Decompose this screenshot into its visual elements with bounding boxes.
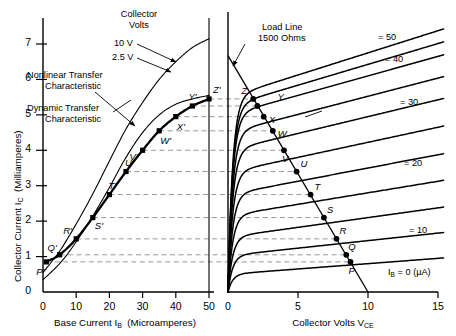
- dynamic-transfer-label-line2: Characteristic: [45, 114, 101, 124]
- collector-volts-10v-label: 10 V: [114, 38, 133, 48]
- collector-volts-title-2: Volts: [108, 20, 170, 30]
- left-point-label-T-prime: T': [108, 181, 116, 192]
- curve-label-ib-50: = 50: [378, 32, 396, 42]
- right-point-label-Q: Q: [348, 242, 355, 253]
- x-axis-title-main: Base Current I: [54, 317, 117, 328]
- load-line-label-line1: Load Line: [262, 22, 302, 32]
- left-point-label-Z-prime: Z': [213, 85, 221, 96]
- right-x-tick-15: 15: [423, 301, 453, 313]
- left-y-tick-2: 2: [5, 214, 31, 226]
- left-y-tick-1: 1: [5, 250, 31, 262]
- right-point-label-T: T: [315, 182, 321, 193]
- load-line-label-line2: 1500 Ohms: [258, 33, 306, 43]
- left-point-label-P-prime: P': [36, 267, 44, 278]
- left-point-label-V-prime: V': [130, 152, 138, 163]
- left-x-tick-0: 0: [28, 301, 58, 313]
- right-x-axis-title: Collector Volts VCE: [258, 318, 408, 330]
- nonlinear-transfer-label-line1: Nonlinear Transfer: [27, 70, 103, 80]
- left-x-tick-40: 40: [161, 301, 191, 313]
- curve-label-ib-0: IB = 0 (µA): [388, 267, 431, 278]
- right-point-label-Y: Y: [277, 92, 283, 103]
- curve-label-ib-10: = 10: [409, 225, 427, 235]
- left-point-label-Q-prime: Q': [48, 243, 57, 254]
- x-axis-title-sub: B: [117, 322, 122, 329]
- chart-canvas: [0, 0, 456, 336]
- y-axis-title-sub: C: [17, 197, 24, 202]
- collector-volts-2p5v-label: 2.5 V: [112, 52, 133, 62]
- right-x-axis-title-sub: CE: [364, 322, 374, 329]
- left-point-label-S-prime: S': [95, 221, 103, 232]
- right-x-tick-0: 0: [213, 301, 243, 313]
- left-x-axis-title: Base Current IB (Microamperes): [45, 318, 205, 330]
- left-point-label-W-prime: W': [160, 136, 171, 147]
- ib-zero-rest: = 0 (µA): [398, 267, 431, 277]
- left-point-label-Y-prime: Y': [188, 92, 196, 103]
- left-x-tick-20: 20: [94, 301, 124, 313]
- left-y-tick-5: 5: [5, 108, 31, 120]
- right-point-label-U: U: [301, 159, 308, 170]
- nonlinear-transfer-label-line2: Characteristic: [45, 81, 101, 91]
- plot-geometry: [36, 12, 444, 298]
- curve-label-ib-30: = 30: [400, 97, 418, 107]
- right-point-label-S: S: [327, 205, 333, 216]
- right-point-label-V: V: [282, 154, 288, 165]
- left-point-label-X-prime: X': [177, 122, 185, 133]
- right-point-label-R: R: [340, 226, 347, 237]
- left-point-label-R-prime: R': [63, 226, 72, 237]
- collector-volts-title: Collector: [108, 9, 170, 19]
- dynamic-transfer-label-line1: Dynamic Transfer: [27, 103, 99, 113]
- right-point-label-P: P: [349, 266, 355, 277]
- curve-label-ib-20: = 20: [404, 158, 422, 168]
- right-point-label-Z: Z: [241, 86, 247, 97]
- ib-zero-sub: B: [391, 271, 395, 278]
- right-point-label-W: W: [278, 129, 287, 140]
- left-y-tick-0: 0: [5, 285, 31, 297]
- right-x-tick-5: 5: [283, 301, 313, 313]
- left-x-tick-10: 10: [61, 301, 91, 313]
- x-axis-title-unit: (Microamperes): [127, 317, 196, 328]
- right-x-axis-title-main: Collector Volts V: [292, 317, 364, 328]
- left-x-tick-30: 30: [128, 301, 158, 313]
- left-y-tick-4: 4: [5, 143, 31, 155]
- left-y-tick-6: 6: [5, 72, 31, 84]
- right-point-label-X: X: [269, 115, 275, 126]
- right-x-tick-10: 10: [353, 301, 383, 313]
- left-y-tick-3: 3: [5, 179, 31, 191]
- figure-root: Collector Current IC (Milliamperes) Base…: [0, 0, 456, 336]
- curve-label-ib-40: = 40: [385, 54, 403, 64]
- left-y-tick-7: 7: [5, 37, 31, 49]
